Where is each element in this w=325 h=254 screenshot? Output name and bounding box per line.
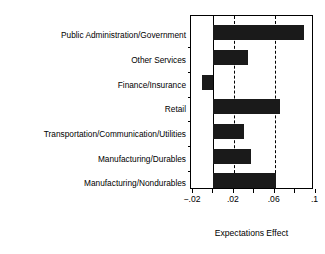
x-tick-4 <box>274 189 275 193</box>
bar-finance-insurance <box>202 75 213 90</box>
bar-transportation-communication-utilities <box>213 124 244 139</box>
y-tick-5 <box>188 171 191 172</box>
x-tick-3 <box>253 189 254 193</box>
y-axis-label-3: Retail <box>165 105 186 114</box>
plot-area <box>190 15 313 189</box>
y-axis-category-labels: Public Administration/Government Other S… <box>0 15 186 189</box>
y-tick-1 <box>188 72 191 73</box>
y-axis-label-2: Finance/Insurance <box>118 81 186 90</box>
bar-public-administration-government <box>213 25 304 40</box>
bar-other-services <box>213 50 248 65</box>
bar-retail <box>213 99 279 114</box>
bar-manufacturing-nondurables <box>213 173 275 188</box>
x-tick-label-6: .1 <box>311 194 318 204</box>
y-tick-2 <box>188 97 191 98</box>
x-tick-2 <box>233 189 234 193</box>
bar-manufacturing-durables <box>213 149 251 164</box>
x-tick-1 <box>212 189 213 193</box>
y-axis-label-6: Manufacturing/Nondurables <box>84 179 186 188</box>
y-tick-0 <box>188 47 191 48</box>
x-tick-label-0: −.02 <box>184 194 201 204</box>
y-tick-3 <box>188 121 191 122</box>
x-tick-5 <box>294 189 295 193</box>
x-tick-0 <box>192 189 193 193</box>
y-axis-label-1: Other Services <box>131 56 186 65</box>
bar-chart-figure: Public Administration/Government Other S… <box>0 0 325 254</box>
x-axis-title: Expectations Effect <box>190 228 313 238</box>
y-axis-label-4: Transportation/Communication/Utilities <box>44 130 186 139</box>
x-tick-label-2: .02 <box>227 194 239 204</box>
y-tick-4 <box>188 146 191 147</box>
x-axis: −.02.02.06.1 <box>190 189 313 190</box>
x-tick-6 <box>315 189 316 193</box>
x-tick-label-4: .06 <box>268 194 280 204</box>
y-axis-label-0: Public Administration/Government <box>61 31 186 40</box>
y-axis-label-5: Manufacturing/Durables <box>98 155 186 164</box>
